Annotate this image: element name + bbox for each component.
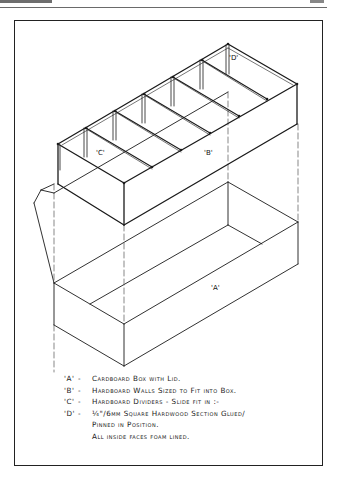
label-c: 'C' — [96, 149, 105, 157]
parts-legend: 'A' - Cardboard Box with Lid. 'B' - Hard… — [64, 373, 245, 443]
label-a: 'A' — [211, 284, 220, 292]
legend-item-b: 'B' - Hardboard Walls Sized to Fit into … — [64, 385, 245, 397]
legend-item-d: 'D' - ¼"/6mm Square Hardwood Section Glu… — [64, 408, 245, 420]
legend-item-a: 'A' - Cardboard Box with Lid. — [64, 373, 245, 385]
label-b: 'B' — [204, 149, 213, 157]
hardboard-tray-b — [58, 44, 297, 225]
label-d: 'D' — [229, 54, 238, 62]
legend-note: All inside faces foam lined. — [64, 431, 245, 443]
legend-continuation-1: Pinned in Position. — [64, 419, 245, 431]
legend-item-c: 'C' - Hardboard Dividers - Slide fit in … — [64, 396, 245, 408]
cardboard-box-a — [34, 92, 298, 366]
